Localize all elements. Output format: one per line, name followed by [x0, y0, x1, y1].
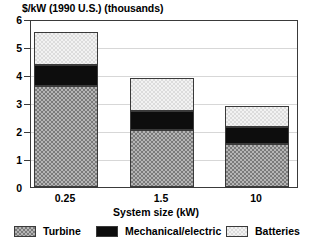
legend-label-batteries: Batteries — [255, 226, 300, 237]
bar-0.25 — [34, 32, 98, 187]
chart-container: $/kW (1990 U.S.) (thousands) 6 5 4 3 2 1… — [0, 0, 312, 248]
x-tick-label-0: 0.25 — [55, 192, 75, 204]
y-tick-label: 0 — [16, 183, 22, 194]
y-axis: 6 5 4 3 2 1 0 — [0, 0, 30, 210]
chart-title: $/kW (1990 U.S.) (thousands) — [22, 2, 163, 14]
bar-segment-batteries — [225, 106, 289, 127]
bar-10 — [225, 106, 289, 187]
y-tick-label: 2 — [16, 127, 22, 138]
bar-segment-turbine — [34, 86, 98, 187]
legend-item-mechanical: Mechanical/electric — [96, 226, 221, 237]
bar-segment-mechanical — [225, 127, 289, 144]
y-tick-label: 3 — [16, 99, 22, 110]
x-tick-label-2: 10 — [250, 192, 262, 204]
bar-segment-mechanical — [130, 111, 194, 129]
bar-segment-batteries — [130, 78, 194, 112]
legend-swatch-mechanical-icon — [96, 226, 118, 237]
y-tick-label: 6 — [16, 15, 22, 26]
y-tick-label: 1 — [16, 155, 22, 166]
legend-label-mechanical: Mechanical/electric — [125, 226, 221, 237]
bar-segment-turbine — [225, 144, 289, 187]
y-tick-label: 4 — [16, 71, 22, 82]
bar-1.5 — [130, 78, 194, 187]
legend-item-turbine: Turbine — [14, 226, 81, 237]
bar-segment-mechanical — [34, 65, 98, 86]
bar-segment-batteries — [34, 32, 98, 66]
legend-label-turbine: Turbine — [43, 226, 81, 237]
y-tick-label: 5 — [16, 43, 22, 54]
x-axis-title: System size (kW) — [0, 206, 312, 218]
legend-item-batteries: Batteries — [226, 226, 300, 237]
legend-swatch-batteries-icon — [226, 226, 248, 237]
chart-legend: Turbine Mechanical/electric Batteries — [0, 226, 312, 244]
bar-segment-turbine — [130, 130, 194, 187]
plot-area — [30, 20, 298, 188]
legend-swatch-turbine-icon — [14, 226, 36, 237]
x-tick-label-1: 1.5 — [154, 192, 169, 204]
